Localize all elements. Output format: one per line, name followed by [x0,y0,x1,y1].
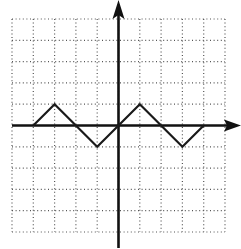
coordinate-plane [0,0,241,249]
